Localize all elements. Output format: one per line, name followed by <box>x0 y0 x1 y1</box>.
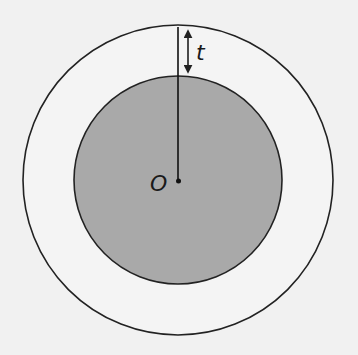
concentric-circles-diagram: t O <box>0 0 358 355</box>
center-point <box>176 179 181 184</box>
thickness-label: t <box>196 40 206 65</box>
center-label: O <box>150 171 167 196</box>
